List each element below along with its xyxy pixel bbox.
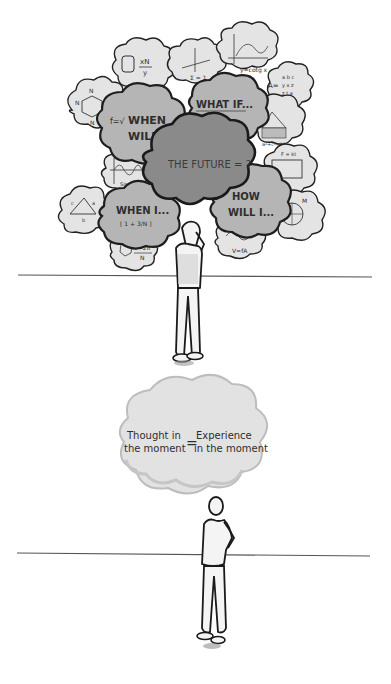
bottom-scene: Thought in the moment = Experience in th… (17, 375, 370, 649)
top-scene: xN y N N N N Σ = 1 y=cotg x A= (18, 22, 372, 366)
cloud-right-line1: Experience (196, 430, 252, 441)
cloud-left-line1: Thought in (126, 430, 181, 441)
svg-text:b: b (82, 217, 85, 223)
svg-text:c: c (71, 200, 74, 206)
when-will-prefix: f=√ (110, 117, 126, 126)
cloud-right-line2: in the moment (194, 443, 268, 454)
svg-text:N: N (90, 119, 95, 126)
svg-text:N: N (140, 254, 145, 261)
svg-text:F = kt: F = kt (281, 151, 296, 157)
figure-thinking (173, 222, 204, 366)
center-cloud-text: THE FUTURE = ? (167, 159, 251, 170)
cloud-left-line2: the moment (124, 443, 186, 454)
how-will-i-line1: HOW (232, 191, 260, 202)
svg-text:y=cotg x: y=cotg x (240, 66, 268, 74)
when-will-line1: WHEN (128, 114, 166, 127)
svg-text:y: y (143, 69, 147, 77)
how-will-i-line2: WILL I... (228, 207, 274, 218)
figure-present (197, 497, 234, 649)
svg-text:N: N (89, 87, 94, 94)
svg-text:V=fA: V=fA (232, 247, 248, 254)
illustration: xN y N N N N Σ = 1 y=cotg x A= (0, 0, 391, 684)
svg-text:A=: A= (268, 82, 279, 90)
formula-cloud-cylinder: xN y (112, 38, 175, 90)
ground-line-bottom (17, 553, 370, 556)
when-i-line2: [ 1 + 3/N ] (120, 220, 151, 227)
svg-text:N: N (75, 99, 80, 106)
svg-text:y x z: y x z (282, 82, 294, 89)
svg-text:M: M (302, 197, 307, 204)
svg-text:a: a (92, 200, 95, 206)
when-i-line1: WHEN I... (116, 205, 169, 216)
what-if-line1: WHAT IF... (196, 99, 253, 110)
svg-text:xN: xN (140, 58, 149, 66)
svg-text:a b c: a b c (282, 74, 294, 80)
